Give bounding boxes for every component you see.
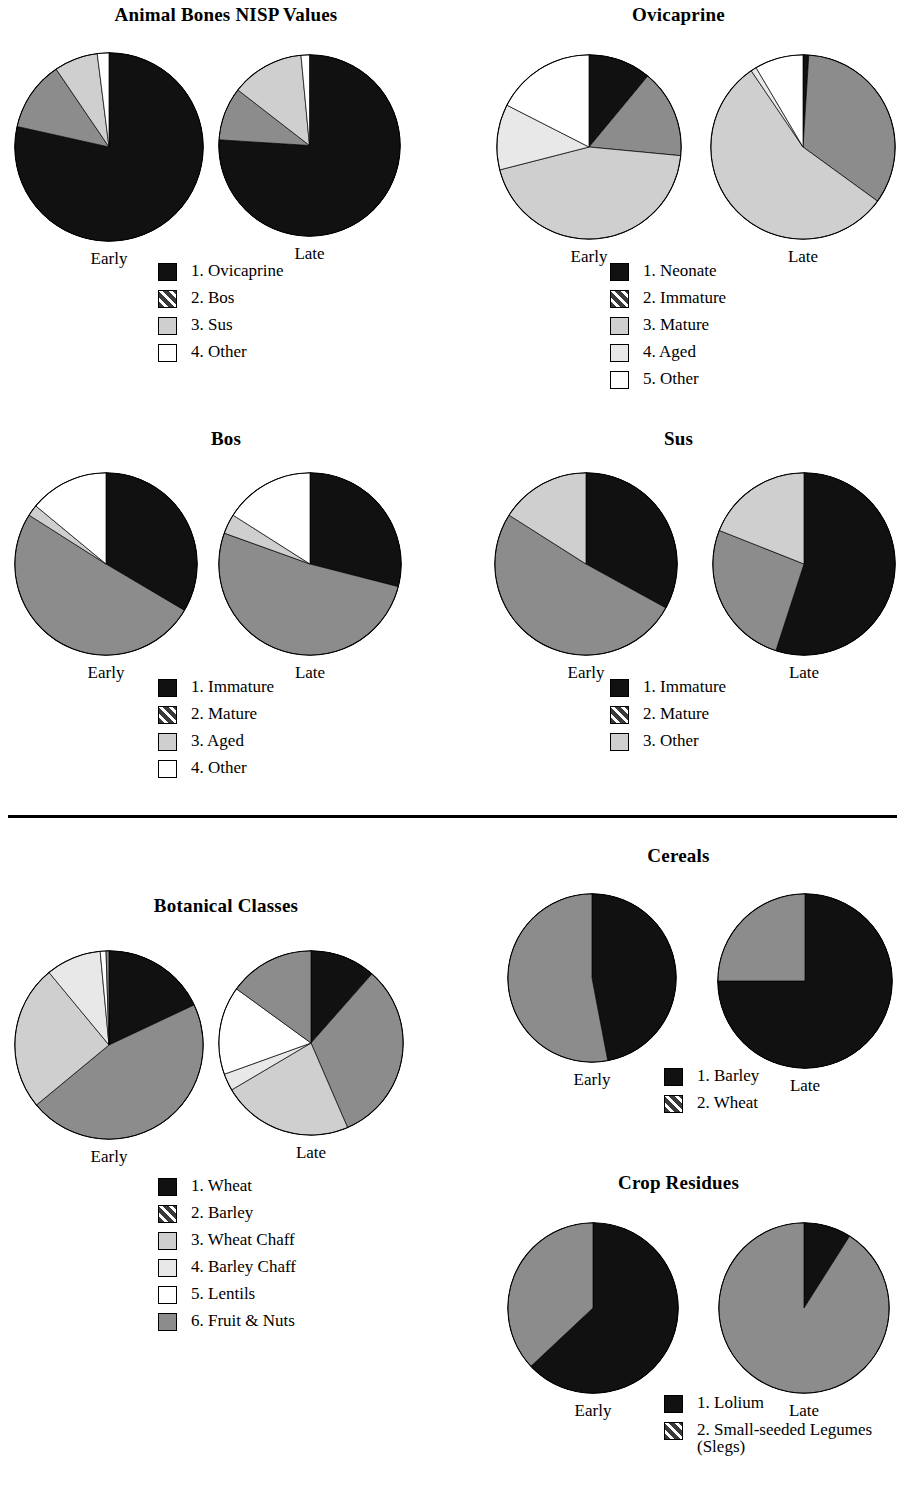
panel-bos: Bos Early Late 1. Immature2. Mature3. Ag… xyxy=(0,428,452,690)
legend-sus: 1. Immature2. Mature3. Other xyxy=(610,678,726,759)
legend-label: 6. Fruit & Nuts xyxy=(191,1312,295,1329)
legend-label: 5. Lentils xyxy=(191,1285,255,1302)
legend-swatch-other xyxy=(158,760,177,778)
legend-swatch-aged xyxy=(610,344,629,362)
legend-swatch-sus xyxy=(158,317,177,335)
page-title: Crop Residues xyxy=(452,1172,905,1194)
pie-chart-bos-early: Early xyxy=(14,472,198,683)
pie-chart-crop-residues-early: Early xyxy=(507,1222,679,1421)
legend-botanical-classes: 1. Wheat2. Barley3. Wheat Chaff4. Barley… xyxy=(158,1177,296,1339)
legend-swatch-ovicaprine xyxy=(158,263,177,281)
legend-label: 1. Ovicaprine xyxy=(191,262,284,279)
pie-graphic xyxy=(496,54,682,240)
legend-swatch-immature xyxy=(610,290,629,308)
legend-item[interactable]: 4. Aged xyxy=(610,343,726,362)
legend-label: 5. Other xyxy=(643,370,699,387)
pie-chart-botanical-late: Late xyxy=(218,950,404,1163)
legend-swatch-immature xyxy=(158,679,177,697)
legend-item[interactable]: 1. Lolium xyxy=(664,1394,872,1413)
legend-item[interactable]: 1. Ovicaprine xyxy=(158,262,284,281)
page-title: Ovicaprine xyxy=(452,4,905,26)
pie-chart-nisp-early: Early xyxy=(14,52,204,269)
legend-crop-residues: 1. Lolium2. Small-seeded Legumes(Slegs) xyxy=(664,1394,872,1463)
legend-label: 4. Other xyxy=(191,343,247,360)
legend-item[interactable]: 6. Fruit & Nuts xyxy=(158,1312,296,1331)
legend-label: 1. Wheat xyxy=(191,1177,252,1194)
legend-item[interactable]: 4. Barley Chaff xyxy=(158,1258,296,1277)
section-divider xyxy=(8,815,897,818)
pie-chart-cereals-early: Early xyxy=(507,893,677,1090)
legend-bos: 1. Immature2. Mature3. Aged4. Other xyxy=(158,678,274,786)
legend-item[interactable]: 2. Wheat xyxy=(664,1094,759,1113)
legend-label: 3. Mature xyxy=(643,316,709,333)
panel-sus: Sus Early Late 1. Immature2. Mature3. Ot… xyxy=(452,428,905,690)
legend-item[interactable]: 1. Barley xyxy=(664,1067,759,1086)
pie-graphic xyxy=(718,1222,890,1394)
panel-animal-bones-nisp: Animal Bones NISP Values Early Late 1. O… xyxy=(0,4,452,271)
legend-swatch-mature xyxy=(610,317,629,335)
legend-label: 1. Immature xyxy=(643,678,726,695)
legend-swatch-fruit-nuts xyxy=(158,1313,177,1331)
legend-label: 3. Other xyxy=(643,732,699,749)
legend-item[interactable]: 1. Neonate xyxy=(610,262,726,281)
legend-label: 3. Aged xyxy=(191,732,244,749)
legend-item[interactable]: 1. Immature xyxy=(158,678,274,697)
pie-chart-ovicaprine-late: Late xyxy=(710,54,896,267)
legend-swatch-wheat-chaff xyxy=(158,1232,177,1250)
page-title: Sus xyxy=(452,428,905,450)
legend-label: 2. Bos xyxy=(191,289,234,306)
legend-item[interactable]: 2. Bos xyxy=(158,289,284,308)
pie-chart-sus-early: Early xyxy=(494,472,678,683)
legend-item[interactable]: 2. Immature xyxy=(610,289,726,308)
legend-label: 2. Small-seeded Legumes(Slegs) xyxy=(697,1421,872,1455)
panel-ovicaprine: Ovicaprine Early Late 1. Neonate2. Immat… xyxy=(452,4,905,271)
legend-ovicaprine: 1. Neonate2. Immature3. Mature4. Aged5. … xyxy=(610,262,726,397)
pie-chart-ovicaprine-early: Early xyxy=(496,54,682,267)
pie-period-label: Late xyxy=(218,1143,404,1163)
page-title: Cereals xyxy=(452,845,905,867)
legend-swatch-barley xyxy=(158,1205,177,1223)
pie-graphic xyxy=(712,472,896,656)
legend-item[interactable]: 1. Immature xyxy=(610,678,726,697)
pie-period-label: Late xyxy=(712,663,896,683)
pie-graphic xyxy=(14,950,204,1140)
legend-swatch-aged xyxy=(158,733,177,751)
legend-item[interactable]: 5. Other xyxy=(610,370,726,389)
legend-item[interactable]: 3. Wheat Chaff xyxy=(158,1231,296,1250)
legend-swatch-immature xyxy=(610,679,629,697)
pie-period-label: Early xyxy=(507,1401,679,1421)
pie-period-label: Early xyxy=(14,1147,204,1167)
legend-item[interactable]: 4. Other xyxy=(158,759,274,778)
legend-label: 2. Immature xyxy=(643,289,726,306)
legend-swatch-barley xyxy=(664,1068,683,1086)
legend-item[interactable]: 1. Wheat xyxy=(158,1177,296,1196)
legend-label: 4. Barley Chaff xyxy=(191,1258,296,1275)
legend-item[interactable]: 2. Mature xyxy=(158,705,274,724)
page-title: Bos xyxy=(0,428,452,450)
legend-label: 1. Lolium xyxy=(697,1394,764,1411)
legend-label: 1. Neonate xyxy=(643,262,717,279)
legend-swatch-other xyxy=(610,733,629,751)
legend-item[interactable]: 3. Aged xyxy=(158,732,274,751)
pie-graphic xyxy=(494,472,678,656)
legend-swatch-lolium xyxy=(664,1395,683,1413)
legend-swatch-other xyxy=(610,371,629,389)
legend-item[interactable]: 2. Barley xyxy=(158,1204,296,1223)
legend-item[interactable]: 3. Other xyxy=(610,732,726,751)
legend-label: 3. Wheat Chaff xyxy=(191,1231,295,1248)
legend-label: 3. Sus xyxy=(191,316,233,333)
panel-crop-residues: Crop Residues Early Late 1. Lolium2. Sma… xyxy=(452,1172,905,1409)
legend-item[interactable]: 4. Other xyxy=(158,343,284,362)
legend-swatch-mature xyxy=(610,706,629,724)
pie-chart-botanical-early: Early xyxy=(14,950,204,1167)
legend-item[interactable]: 3. Mature xyxy=(610,316,726,335)
legend-item[interactable]: 3. Sus xyxy=(158,316,284,335)
legend-label: 2. Mature xyxy=(643,705,709,722)
legend-label: 2. Wheat xyxy=(697,1094,758,1111)
panel-cereals: Cereals Early Late 1. Barley2. Wheat xyxy=(452,845,905,1082)
legend-item[interactable]: 5. Lentils xyxy=(158,1285,296,1304)
pie-graphic xyxy=(507,1222,679,1394)
pie-chart-bos-late: Late xyxy=(218,472,402,683)
legend-item[interactable]: 2. Small-seeded Legumes(Slegs) xyxy=(664,1421,872,1455)
legend-item[interactable]: 2. Mature xyxy=(610,705,726,724)
